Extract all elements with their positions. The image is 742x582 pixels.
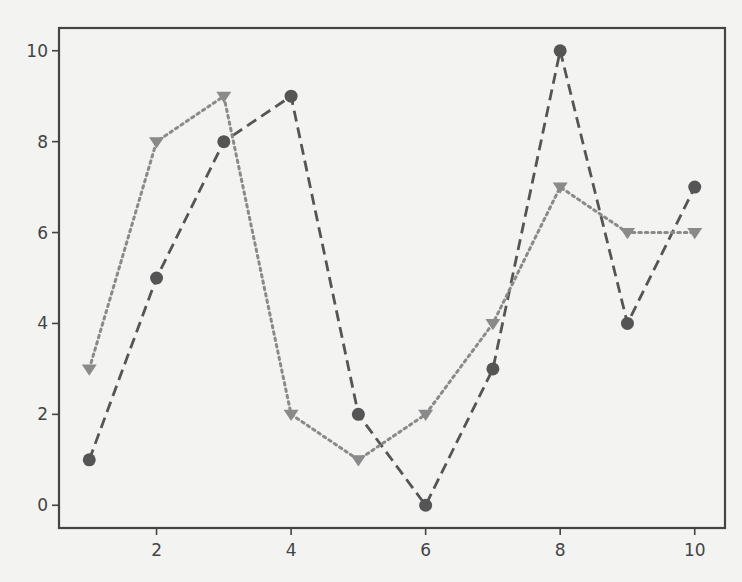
x-tick-label: 4 (286, 540, 297, 560)
y-tick-label: 10 (26, 41, 48, 61)
series-circle-dashed (83, 44, 701, 512)
triangle-down-marker (418, 410, 433, 421)
series-line (89, 96, 694, 460)
chart-canvas: 246810 0246810 (0, 0, 742, 582)
circle-marker (83, 453, 96, 466)
circle-marker (419, 499, 432, 512)
triangle-down-marker (82, 364, 97, 375)
x-tick-label: 2 (151, 540, 162, 560)
circle-marker (150, 272, 163, 285)
circle-marker (554, 44, 567, 57)
x-tick-label: 6 (420, 540, 431, 560)
x-tick-label: 8 (555, 540, 566, 560)
circle-marker (217, 135, 230, 148)
series-line (89, 51, 694, 506)
y-axis: 0246810 (26, 41, 59, 516)
triangle-down-marker (216, 92, 231, 103)
triangle-down-marker (553, 183, 568, 194)
y-tick-label: 4 (37, 313, 48, 333)
series-layer (82, 44, 702, 512)
circle-marker (486, 362, 499, 375)
line-chart: 246810 0246810 (0, 0, 742, 582)
circle-marker (688, 181, 701, 194)
circle-marker (621, 317, 634, 330)
circle-marker (352, 408, 365, 421)
x-axis: 246810 (151, 528, 705, 560)
triangle-down-marker (149, 137, 164, 148)
x-tick-label: 10 (684, 540, 706, 560)
triangle-down-marker (687, 228, 702, 239)
y-tick-label: 2 (37, 404, 48, 424)
circle-marker (285, 90, 298, 103)
series-triangle-dotted (82, 92, 702, 467)
triangle-down-marker (351, 455, 366, 466)
y-tick-label: 8 (37, 132, 48, 152)
y-tick-label: 6 (37, 223, 48, 243)
y-tick-label: 0 (37, 495, 48, 515)
